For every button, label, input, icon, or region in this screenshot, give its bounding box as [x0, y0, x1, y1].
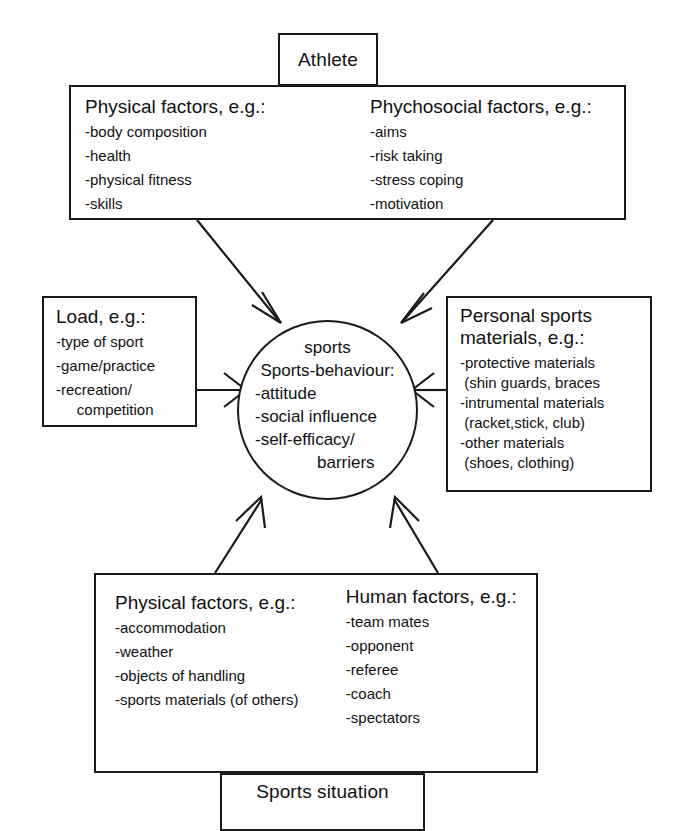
arrowhead-athlete-psycho — [401, 293, 432, 323]
list-item: -skills — [85, 196, 368, 212]
list-item: -health — [85, 148, 368, 164]
list-item: -opponent — [346, 638, 536, 654]
hub-overline: sports — [239, 336, 416, 359]
athlete-title-box: Athlete — [278, 33, 378, 86]
list-item: -sports materials (of others) — [115, 692, 344, 708]
list-item: -weather — [115, 644, 344, 660]
hub-item: -self-efficacy/ — [239, 428, 416, 451]
list-item: -accommodation — [115, 620, 344, 636]
situation-physical-factors-column: Physical factors, e.g.: -accommodation -… — [96, 575, 344, 771]
list-item: competition — [56, 402, 195, 418]
list-item: -intrumental materials — [460, 395, 650, 411]
list-item: -type of sport — [56, 334, 195, 350]
hub-heading: Sports-behaviour: — [239, 359, 416, 382]
sports-situation-title-box: Sports situation — [220, 773, 425, 831]
list-item: -game/practice — [56, 358, 195, 374]
list-item: (shoes, clothing) — [460, 455, 650, 471]
arrowhead-athlete-physical — [252, 292, 281, 323]
sports-situation-title-label: Sports situation — [256, 781, 389, 803]
athlete-physical-factors-heading: Physical factors, e.g.: — [85, 96, 368, 118]
wire-situation-physical-to-hub — [215, 499, 262, 573]
list-item: -motivation — [370, 196, 624, 212]
list-item: -aims — [370, 124, 624, 140]
list-item: -protective materials — [460, 355, 650, 371]
hub-content: sports Sports-behaviour: -attitude -soci… — [239, 336, 416, 474]
wire-situation-human-to-hub — [394, 499, 438, 573]
arrowhead-situation-physical — [236, 497, 265, 528]
hub-item: -social influence — [239, 405, 416, 428]
athlete-factors-panel: Physical factors, e.g.: -body compositio… — [69, 85, 626, 220]
load-box: Load, e.g.: -type of sport -game/practic… — [42, 296, 197, 427]
wire-athlete-physical-to-hub — [197, 220, 279, 321]
sports-situation-factors-panel: Physical factors, e.g.: -accommodation -… — [94, 573, 538, 773]
hub-item: barriers — [239, 451, 416, 474]
sports-behaviour-hub: sports Sports-behaviour: -attitude -soci… — [237, 320, 418, 500]
list-item: -referee — [346, 662, 536, 678]
list-item: -spectators — [346, 710, 536, 726]
situation-human-factors-column: Human factors, e.g.: -team mates -oppone… — [344, 575, 536, 771]
load-heading: Load, e.g.: — [56, 306, 195, 328]
athlete-physical-factors-column: Physical factors, e.g.: -body compositio… — [71, 87, 368, 218]
hub-item: -attitude — [239, 382, 416, 405]
personal-sports-materials-box: Personal sports materials, e.g.: -protec… — [446, 296, 652, 492]
list-item: -team mates — [346, 614, 536, 630]
list-item: -coach — [346, 686, 536, 702]
list-item: -other materials — [460, 435, 650, 451]
list-item: -risk taking — [370, 148, 624, 164]
list-item: (racket,stick, club) — [460, 415, 650, 431]
list-item: -objects of handling — [115, 668, 344, 684]
list-item: -stress coping — [370, 172, 624, 188]
athlete-title-label: Athlete — [298, 49, 358, 71]
situation-human-factors-heading: Human factors, e.g.: — [346, 586, 536, 608]
athlete-psychosocial-factors-heading: Phychosocial factors, e.g.: — [370, 96, 624, 118]
list-item: (shin guards, braces — [460, 375, 650, 391]
list-item: -recreation/ — [56, 382, 195, 398]
arrowhead-situation-human — [390, 497, 419, 528]
personal-sports-materials-heading: Personal sports materials, e.g.: — [460, 305, 650, 349]
list-item: -physical fitness — [85, 172, 368, 188]
list-item: -body composition — [85, 124, 368, 140]
athlete-psychosocial-factors-column: Phychosocial factors, e.g.: -aims -risk … — [368, 87, 624, 218]
situation-physical-factors-heading: Physical factors, e.g.: — [115, 592, 344, 614]
